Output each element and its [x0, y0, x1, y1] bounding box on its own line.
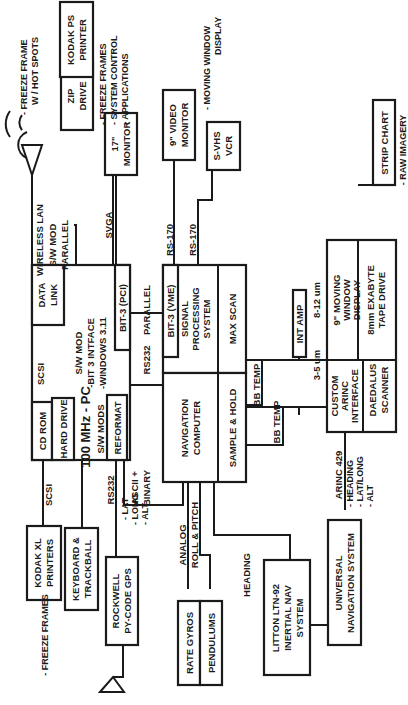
video-monitor-line-2: MONITOR [179, 103, 190, 148]
um-3-5-label: 3-5 um [311, 350, 322, 381]
bit3-vme-label: BIT-3 (VME) [165, 285, 176, 338]
scsi-internal-label: SCSI [35, 363, 46, 385]
data-link-line-1: DATA [36, 282, 47, 307]
exabyte-line-2: TAPE DRIVE [376, 272, 387, 328]
scsi-ext-label: SCSI [43, 484, 54, 506]
kodak-ps-line-1: KODAK PS [65, 15, 76, 65]
rate-gyros-label: RATE GYROS [184, 612, 195, 674]
rs232-gps-label: RS232 [105, 475, 116, 504]
moving-window-note-2: DISPLAY [213, 17, 223, 55]
litton-line-2: INERTIAL NAV [282, 585, 293, 651]
sps-line-3: SYSTEM [201, 299, 212, 338]
monitor-17-line-2: MONITOR [121, 122, 132, 167]
nav-computer-line-2: COMPUTER [191, 401, 202, 456]
heading-label: HEADING [241, 553, 252, 597]
kodak-xl-line-1: KODAK XL [32, 538, 43, 588]
scanner-block: 9" MOVING WINDOW DISPLAY 8mm EXABYTE TAP… [327, 240, 396, 432]
zip-line-2: DRIVE [77, 81, 88, 110]
exabyte-line-1: 8mm EXABYTE [365, 265, 376, 335]
zip-note-1: - FREEZE FRAMES [98, 43, 108, 125]
zip-line-1: ZIP [65, 88, 76, 103]
video-monitor-line-1: 9" VIDEO [167, 104, 178, 146]
mwd-line-3: DISPLAY [351, 279, 362, 320]
raw-imagery-note: - RAW IMAGERY [398, 115, 408, 186]
daedalus-line-2: SCANNER [379, 366, 390, 413]
litton-line-1: LITTON LTN-92 [270, 584, 281, 652]
hard-drive-label: HARD DRIVE [58, 399, 69, 458]
parallel-mid-label: PARALLEL [141, 285, 152, 335]
gps-line-1: ROCKWELL [110, 573, 121, 628]
kodak-ps-line-2: PRINTER [77, 19, 88, 61]
arinc429-label: ARINC 429 [333, 451, 344, 500]
parallel-top-label: PARALLEL [59, 220, 70, 270]
freeze-frames-note: - FREEZE FRAMES [40, 594, 50, 676]
pc-line-3: -WINDOWS 3.11 [97, 316, 108, 389]
arinc-note-alt: - ALT [365, 485, 375, 507]
ascii-label: ASCII + [129, 471, 140, 505]
roll-pitch-label: ROLL & PITCH [189, 502, 200, 568]
pc-line-2: -BIT 3 INTFACE [85, 318, 96, 388]
vcr-line-2: VCR [223, 136, 234, 156]
um-8-12-label: 8-12 um [311, 282, 322, 318]
pendulums-label: PENDULUMS [206, 613, 217, 673]
universal-nav-line-2: NAVIGATION SYSTEM [345, 533, 356, 633]
universal-nav-line-1: UNIVERSAL [333, 555, 344, 610]
bb-temp-a-label: BB TEMP [251, 363, 262, 406]
vcr-line-1: S-VHS [211, 131, 222, 160]
pc-title: 100 MHz - PC [78, 386, 93, 468]
int-amp-label: INT AMP [294, 304, 305, 343]
litton-line-3: SYSTEM [294, 598, 305, 637]
moving-window-note-1: - MOVING WINDOW [202, 26, 212, 110]
pc-box: CD ROM HARD DRIVE SCSI 100 MHz - PC S/W … [32, 265, 130, 468]
sw-mods-label: S/W MODS [95, 404, 106, 453]
reformat-label: REFORMAT [112, 401, 123, 454]
sps-line-1: SIGNAL [179, 301, 190, 337]
gps-antenna-icon [100, 677, 124, 692]
signal-processing-block: BIT-3 (VME) SIGNAL PROCESSING SYSTEM MAX… [163, 265, 246, 482]
wireless-lan-label: WIRELESS LAN [34, 204, 45, 276]
gps-line-2: PY-CODE GPS [122, 568, 133, 633]
rs232-mid-label: RS232 [141, 345, 152, 374]
keyboard-line-1: KEYBOARD & [70, 537, 81, 601]
max-scan-label: MAX SCAN [227, 294, 238, 345]
freeze-hot-note-2: W / HOT SPOTS [30, 37, 40, 105]
bb-temp-b-label: BB TEMP [271, 400, 282, 443]
analog-label: ANALOG [177, 524, 188, 565]
kodak-xl-line-2: PRINTERS [44, 539, 55, 587]
arinc-note-heading: - HEADING [345, 460, 355, 507]
sw-mod-label: S/W MOD [47, 223, 58, 266]
nav-computer-line-1: NAVIGATION [179, 399, 190, 457]
arinc-if-line-3: INTERFACE [349, 369, 360, 423]
sample-hold-label: SAMPLE & HOLD [227, 389, 238, 468]
data-link-line-2: LINK [48, 284, 59, 306]
freeze-hot-note-1: - FREEZE FRAME [19, 40, 29, 116]
binary-label: BINARY [141, 469, 152, 506]
zip-note-3: - APPLICATIONS [120, 54, 130, 126]
pc-line-1: S/W MOD [73, 331, 84, 374]
svga-label: SVGA [103, 211, 114, 238]
keyboard-line-2: TRACKBALL [82, 540, 93, 599]
daedalus-line-1: DAEDALUS [367, 364, 378, 417]
block-diagram: CD ROM HARD DRIVE SCSI 100 MHz - PC S/W … [0, 0, 408, 705]
zip-note-2: - SYSTEM CONTROL [109, 35, 119, 125]
strip-chart-label: STRIP CHART [379, 111, 390, 175]
cd-rom-label: CD ROM [37, 412, 48, 451]
monitor-17-line-1: 17" [109, 136, 120, 151]
rs170-a-label: RS-170 [164, 224, 175, 256]
sps-line-2: PROCESSING [190, 287, 201, 350]
rs170-b-label: RS-170 [187, 224, 198, 256]
arinc-note-latlong: - LAT/LONG [355, 456, 365, 507]
bit3-pci-label: BIT-3 (PCI) [117, 284, 128, 332]
